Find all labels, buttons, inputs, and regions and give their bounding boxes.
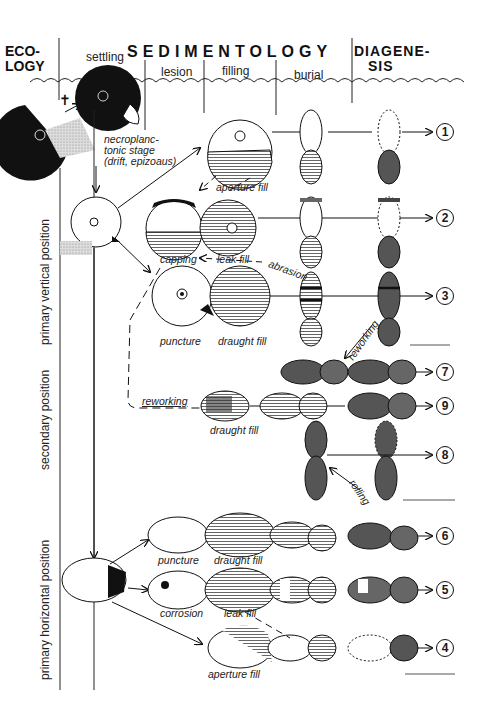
header-ecology-line1: ECO- [5, 44, 45, 59]
label-aperture-fill-1: aperture fill [216, 181, 268, 193]
shell-aperture-fill-1 [208, 120, 272, 189]
side-label-primary-vertical: primary vertical position [38, 219, 52, 345]
settling-ammonite [75, 65, 141, 131]
label-draught-fill-9: draught fill [210, 424, 258, 436]
label-necro-line3: (drift, epizoaus) [104, 156, 176, 167]
header-ecology-line2: LOGY [5, 59, 45, 74]
outcome-4: 4 [436, 639, 454, 657]
shell-draught-fill-3 [210, 266, 270, 326]
shell-capping [146, 199, 202, 260]
header-ecology: ECO- LOGY [5, 44, 45, 74]
header-diagenesis-line2: SIS [354, 59, 430, 74]
label-capping: capping [160, 253, 197, 265]
header-diagenesis: DIAGENE- SIS [354, 44, 430, 74]
label-leak-fill-5: leak fill [224, 607, 256, 619]
outcome-3: 3 [436, 287, 454, 305]
header-sedimentology: SEDIMENTOLOGY [127, 44, 332, 59]
label-necroplanktonic: necroplanc- tonic stage (drift, epizoaus… [104, 134, 176, 167]
shell-draught-fill-9 [201, 391, 249, 421]
header-diagenesis-line1: DIAGENE- [354, 44, 430, 59]
ammonite-vertical-start [60, 197, 121, 255]
outcome-2: 2 [436, 209, 454, 227]
label-puncture-6: puncture [158, 554, 199, 566]
label-leak-fill-2: leak fill [217, 253, 249, 265]
column-filling: filling [222, 64, 249, 78]
label-corrosion: corrosion [160, 607, 203, 619]
column-settling: settling [86, 50, 124, 64]
outcome-1: 1 [436, 123, 454, 141]
outcome-5: 5 [436, 581, 454, 599]
label-puncture-3: puncture [160, 335, 201, 347]
label-draught-fill-6: draught fill [214, 554, 262, 566]
label-draught-fill-3: draught fill [218, 335, 266, 347]
outcome-7: 7 [436, 363, 454, 381]
outcome-6: 6 [436, 527, 454, 545]
outcome-9: 9 [436, 397, 454, 415]
fossil-7 [281, 360, 416, 384]
ammonite-horizontal-start [62, 558, 126, 602]
label-aperture-fill-4: aperture fill [208, 668, 260, 680]
shell-leak-fill-2 [200, 200, 256, 256]
label-reworking-left: reworking [142, 395, 188, 407]
side-label-primary-horizontal: primary horizontal position [38, 540, 52, 680]
cross-icon: ✝ [59, 92, 71, 108]
column-lesion: lesion [161, 65, 192, 79]
side-label-secondary: secondary position [38, 370, 52, 470]
shell-puncture-3 [152, 266, 214, 326]
outcome-8: 8 [436, 446, 454, 464]
column-burial: burial [294, 68, 323, 82]
